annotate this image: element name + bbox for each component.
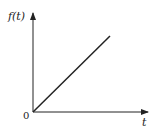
origin-label: 0 (23, 110, 29, 121)
y-axis-label: f(t) (7, 10, 25, 23)
ramp-line (33, 36, 110, 112)
ramp-function-diagram: f(t) t 0 (0, 0, 158, 135)
x-axis-label: t (142, 116, 147, 129)
